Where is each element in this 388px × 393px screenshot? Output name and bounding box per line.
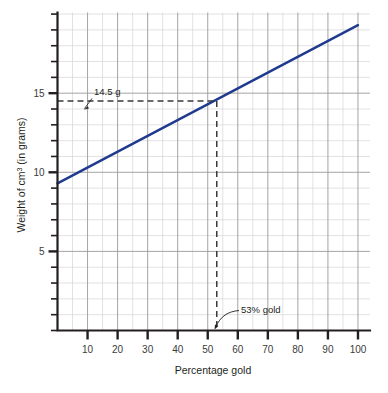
x-tick-label: 20 — [112, 344, 124, 355]
gold-annotation-label: 53% gold — [241, 304, 281, 315]
x-tick-label: 10 — [82, 344, 94, 355]
y-axis-title-after: (in grams) — [15, 117, 27, 167]
y-axis-title-before: Weight of cm — [15, 171, 27, 232]
x-tick-label: 100 — [350, 344, 367, 355]
y-tick-label: 5 — [39, 246, 45, 257]
x-tick-label: 80 — [292, 344, 304, 355]
y-tick-label: 10 — [33, 167, 45, 178]
x-tick-label: 30 — [142, 344, 154, 355]
x-tick-label: 40 — [172, 344, 184, 355]
y-tick-label: 15 — [33, 88, 45, 99]
x-tick-label: 50 — [202, 344, 214, 355]
x-axis-title: Percentage gold — [175, 364, 252, 376]
x-tick-label: 60 — [232, 344, 244, 355]
weight-annotation-label: 14.5 g — [94, 86, 120, 97]
x-tick-label: 90 — [322, 344, 334, 355]
x-tick-label: 70 — [262, 344, 274, 355]
chart-figure: 51015 102030405060708090100 14.5 g 53% g… — [0, 0, 388, 393]
y-axis-title: Weight of cm3 (in grams) — [15, 117, 27, 232]
line-chart: 51015 102030405060708090100 14.5 g 53% g… — [0, 0, 388, 393]
